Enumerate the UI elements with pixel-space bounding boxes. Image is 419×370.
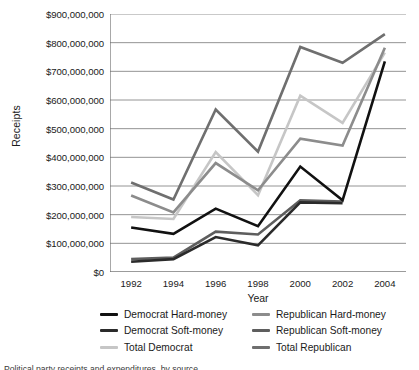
legend-item[interactable]: Republican Hard-money xyxy=(252,309,400,320)
y-tick-label: $800,000,000 xyxy=(46,37,104,48)
y-tick-label: $500,000,000 xyxy=(46,123,104,134)
x-tick-label: 1992 xyxy=(120,278,141,289)
legend-line-swatch-icon xyxy=(100,346,118,349)
x-axis-title: Year xyxy=(110,292,406,304)
y-tick-label: $0 xyxy=(93,267,104,278)
legend-line-swatch-icon xyxy=(100,329,118,332)
y-tick-label: $700,000,000 xyxy=(46,66,104,77)
y-tick-label: $300,000,000 xyxy=(46,181,104,192)
legend-line-swatch-icon xyxy=(100,313,118,316)
y-tick-label: $200,000,000 xyxy=(46,209,104,220)
legend-item-label: Total Democrat xyxy=(124,342,193,353)
y-tick-label: $900,000,000 xyxy=(46,9,104,20)
legend-line-swatch-icon xyxy=(252,346,270,349)
legend-item-label: Total Republican xyxy=(276,342,351,353)
legend-line-swatch-icon xyxy=(252,313,270,316)
y-axis-tick-labels: $0$100,000,000$200,000,000$300,000,000$4… xyxy=(0,0,108,300)
x-tick-label: 2002 xyxy=(332,278,353,289)
legend-item-label: Republican Hard-money xyxy=(276,309,386,320)
legend-item[interactable]: Democrat Soft-money xyxy=(100,325,252,336)
figure-caption: Political party receipts and expenditure… xyxy=(4,364,419,370)
legend-item[interactable]: Total Republican xyxy=(252,342,400,353)
legend-item[interactable]: Democrat Hard-money xyxy=(100,309,252,320)
y-tick-label: $400,000,000 xyxy=(46,152,104,163)
legend-line-swatch-icon xyxy=(252,329,270,332)
x-tick-label: 2000 xyxy=(290,278,311,289)
legend-item[interactable]: Total Democrat xyxy=(100,342,252,353)
series-line xyxy=(131,61,385,234)
plot-area xyxy=(110,14,406,272)
legend-item-label: Republican Soft-money xyxy=(276,325,382,336)
x-tick-label: 1996 xyxy=(205,278,226,289)
y-tick-label: $100,000,000 xyxy=(46,238,104,249)
x-tick-label: 2004 xyxy=(374,278,395,289)
x-tick-label: 1998 xyxy=(247,278,268,289)
x-tick-label: 1994 xyxy=(163,278,184,289)
legend-item-label: Democrat Hard-money xyxy=(124,309,227,320)
legend-item-label: Democrat Soft-money xyxy=(124,325,223,336)
chart-legend: Democrat Hard-moneyRepublican Hard-money… xyxy=(100,306,400,356)
chart-figure: Receipts $0$100,000,000$200,000,000$300,… xyxy=(0,0,419,370)
legend-item[interactable]: Republican Soft-money xyxy=(252,325,400,336)
y-tick-label: $600,000,000 xyxy=(46,95,104,106)
line-chart-svg xyxy=(110,14,406,272)
